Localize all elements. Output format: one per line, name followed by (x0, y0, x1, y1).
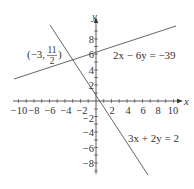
equation-label-line1: 2x − 6y = −39 (113, 49, 176, 61)
svg-text:−8: −8 (83, 158, 94, 169)
svg-text:10: 10 (168, 105, 179, 116)
x-tick-labels: −10 −8 −6 −4 −2 2 4 6 8 10 (11, 105, 178, 116)
y-axis-label: y (91, 10, 97, 22)
y-tick-labels: 8 6 4 2 −2 −4 −6 −8 (83, 34, 95, 169)
svg-text:2: 2 (50, 56, 55, 66)
svg-text:8: 8 (89, 34, 94, 45)
svg-text:2: 2 (109, 105, 114, 116)
svg-text:8: 8 (155, 105, 160, 116)
x-axis-label: x (183, 95, 189, 107)
svg-text:−10: −10 (11, 105, 27, 116)
svg-text:(−3,: (−3, (27, 48, 45, 61)
svg-text:−6: −6 (44, 105, 55, 116)
svg-text:−4: −4 (83, 127, 95, 138)
svg-text:4: 4 (89, 65, 95, 76)
intersection-point-label: (−3, 11 2 ) (27, 45, 62, 66)
equation-label-line2: 3x + 2y = 2 (128, 132, 179, 144)
svg-text:11: 11 (47, 45, 56, 55)
chart-canvas: x y −10 −8 −6 −4 −2 2 4 6 8 10 8 6 4 2 −… (0, 0, 194, 189)
svg-text:−4: −4 (60, 105, 72, 116)
x-axis-arrow-icon (177, 99, 183, 103)
svg-text:): ) (58, 48, 62, 61)
svg-text:4: 4 (125, 105, 131, 116)
svg-text:−6: −6 (83, 143, 94, 154)
svg-text:−8: −8 (28, 105, 39, 116)
svg-text:−2: −2 (83, 113, 94, 124)
svg-text:2: 2 (89, 80, 94, 91)
svg-text:6: 6 (89, 49, 94, 60)
svg-text:6: 6 (140, 105, 145, 116)
